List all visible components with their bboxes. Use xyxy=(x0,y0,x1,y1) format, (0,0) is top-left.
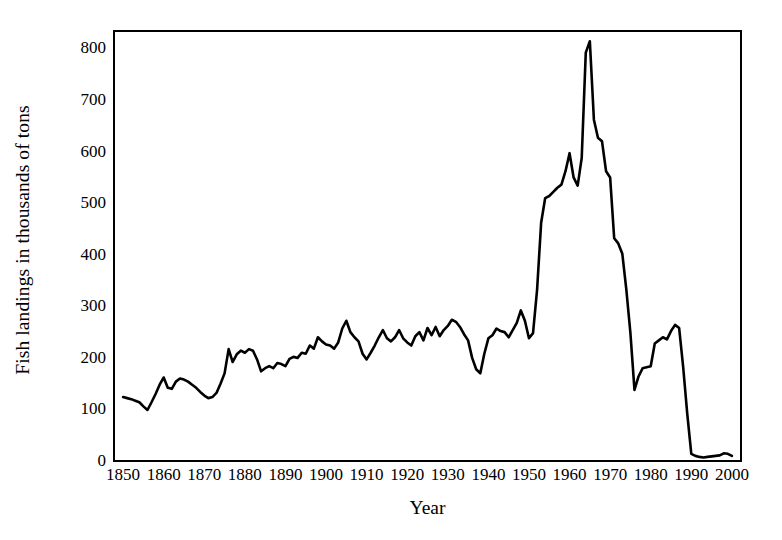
x-tick-label: 1870 xyxy=(187,466,221,483)
data-series-svg xyxy=(115,32,740,460)
plot-area xyxy=(113,30,742,462)
y-tick-label: 400 xyxy=(54,245,106,262)
y-tick-label: 200 xyxy=(54,348,106,365)
x-tick-label: 1860 xyxy=(147,466,181,483)
x-tick-label: 1980 xyxy=(634,466,668,483)
y-axis-tick-labels: 0100200300400500600700800 xyxy=(52,0,106,540)
y-tick-label: 0 xyxy=(54,452,106,469)
y-tick-label: 300 xyxy=(54,297,106,314)
x-tick-label: 2000 xyxy=(715,466,749,483)
x-tick-label: 1930 xyxy=(431,466,465,483)
x-tick-label: 1950 xyxy=(512,466,546,483)
y-tick-label: 700 xyxy=(54,91,106,108)
x-tick-label: 1970 xyxy=(593,466,627,483)
y-axis-title-container: Fish landings in thousands of tons xyxy=(0,0,46,480)
y-tick-label: 800 xyxy=(54,39,106,56)
x-tick-label: 1960 xyxy=(553,466,587,483)
y-tick-label: 600 xyxy=(54,142,106,159)
x-axis-tick-labels: 1850186018701880189019001910192019301940… xyxy=(113,466,742,492)
x-tick-label: 1880 xyxy=(228,466,262,483)
x-tick-label: 1910 xyxy=(350,466,384,483)
x-tick-label: 1920 xyxy=(390,466,424,483)
x-tick-label: 1890 xyxy=(268,466,302,483)
x-axis-title: Year xyxy=(113,497,742,519)
fish-landings-line-chart: Fish landings in thousands of tons 01002… xyxy=(0,0,782,540)
y-tick-label: 100 xyxy=(54,400,106,417)
y-axis-title: Fish landings in thousands of tons xyxy=(12,105,34,374)
fish-landings-line xyxy=(123,41,732,457)
x-tick-label: 1940 xyxy=(471,466,505,483)
x-tick-label: 1850 xyxy=(106,466,140,483)
x-tick-label: 1900 xyxy=(309,466,343,483)
y-tick-label: 500 xyxy=(54,194,106,211)
x-tick-label: 1990 xyxy=(674,466,708,483)
